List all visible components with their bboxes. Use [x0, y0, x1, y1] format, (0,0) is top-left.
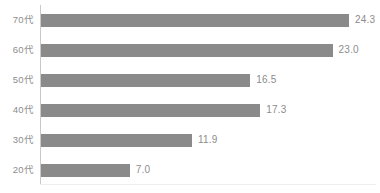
bar-70dai — [41, 14, 349, 27]
bar-track: 23.0 — [41, 35, 380, 65]
bar-row: 60代 23.0 — [0, 35, 380, 65]
bar-row: 50代 16.5 — [0, 65, 380, 95]
bar-track: 11.9 — [41, 125, 380, 155]
value-label-50dai: 16.5 — [256, 65, 276, 95]
bar-30dai — [41, 134, 192, 147]
category-label-60dai: 60代 — [0, 35, 34, 65]
bar-60dai — [41, 44, 333, 57]
bar-40dai — [41, 104, 260, 117]
bar-chart: 70代 24.3 60代 23.0 50代 16.5 — [0, 0, 380, 193]
value-label-40dai: 17.3 — [266, 95, 286, 125]
value-label-70dai: 24.3 — [355, 5, 375, 35]
category-label-40dai: 40代 — [0, 95, 34, 125]
bar-track: 16.5 — [41, 65, 380, 95]
value-label-30dai: 11.9 — [198, 125, 218, 155]
bar-row: 40代 17.3 — [0, 95, 380, 125]
bar-track: 7.0 — [41, 155, 380, 185]
bar-50dai — [41, 74, 250, 87]
category-label-70dai: 70代 — [0, 5, 34, 35]
value-label-60dai: 23.0 — [339, 35, 359, 65]
category-label-20dai: 20代 — [0, 155, 34, 185]
category-label-50dai: 50代 — [0, 65, 34, 95]
bar-row: 30代 11.9 — [0, 125, 380, 155]
value-label-20dai: 7.0 — [136, 155, 151, 185]
bar-rows: 70代 24.3 60代 23.0 50代 16.5 — [0, 5, 380, 185]
plot-area: 70代 24.3 60代 23.0 50代 16.5 — [0, 0, 380, 193]
bar-row: 20代 7.0 — [0, 155, 380, 185]
bar-track: 24.3 — [41, 5, 380, 35]
bar-20dai — [41, 164, 130, 177]
bar-row: 70代 24.3 — [0, 5, 380, 35]
category-label-30dai: 30代 — [0, 125, 34, 155]
bar-track: 17.3 — [41, 95, 380, 125]
